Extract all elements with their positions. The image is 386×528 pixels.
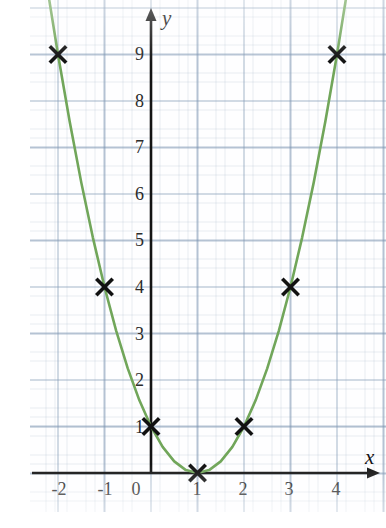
y-tick-label-5: 5 [135, 231, 144, 249]
y-tick-label-8: 8 [135, 92, 144, 110]
x-axis [32, 468, 380, 479]
y-tick-label-2: 2 [135, 371, 144, 389]
y-tick-label-1: 1 [135, 418, 144, 436]
x-tick-label-0: 0 [132, 480, 141, 498]
x-tick-label-2: 2 [239, 480, 248, 498]
y-tick-label-3: 3 [135, 325, 144, 343]
y-tick-label-9: 9 [135, 45, 144, 63]
x-tick-label-1: 1 [193, 480, 202, 498]
y-tick-label-4: 4 [135, 278, 144, 296]
x-tick-label-4: 4 [332, 480, 341, 498]
y-axis-label: y [162, 8, 171, 29]
x-tick-label--2: -2 [52, 480, 67, 498]
y-axis-arrow-icon [146, 8, 157, 21]
point-marker [236, 418, 252, 434]
plot-canvas [0, 0, 386, 528]
y-axis [146, 8, 157, 473]
plotted-points-group [50, 46, 345, 481]
x-axis-arrow-icon [367, 468, 380, 479]
x-axis-label: x [365, 447, 374, 468]
y-tick-label-7: 7 [135, 138, 144, 156]
x-tick-label-3: 3 [285, 480, 294, 498]
graph-figure: -2 -1 0 1 2 3 4 1 2 3 4 5 6 7 8 9 y x [0, 0, 386, 528]
point-marker [96, 279, 112, 295]
parabola-curve [48, 0, 347, 473]
y-tick-label-6: 6 [135, 185, 144, 203]
parabola-curve-group [48, 0, 347, 473]
point-marker [282, 279, 298, 295]
x-tick-label--1: -1 [98, 480, 113, 498]
